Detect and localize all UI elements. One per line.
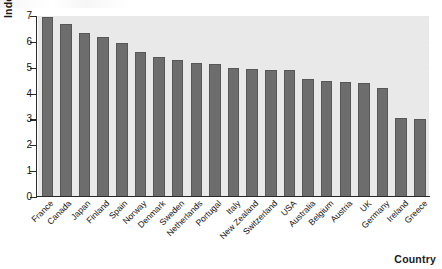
- bar: [228, 68, 240, 197]
- bar-slot: [131, 16, 150, 197]
- scan-artifact: [0, 0, 130, 8]
- bar-slot: [355, 16, 374, 197]
- bar: [284, 70, 296, 197]
- bar: [265, 70, 277, 197]
- y-axis-tick-label: 0: [20, 192, 32, 202]
- bar-slot: [392, 16, 411, 197]
- y-axis-tick-label: 3: [20, 114, 32, 124]
- bar-slot: [75, 16, 94, 197]
- bar-slot: [336, 16, 355, 197]
- x-axis-tick-labels: FranceCanadaJapanFinlandSpainNorwayDenma…: [37, 199, 430, 257]
- bar: [246, 69, 258, 197]
- x-axis-line: [36, 196, 430, 197]
- bar-slot: [57, 16, 76, 197]
- y-axis-title: Index: [2, 0, 16, 18]
- bar-slot: [280, 16, 299, 197]
- bar: [302, 79, 314, 197]
- y-axis-tick-label: 4: [20, 89, 32, 99]
- bar-slot: [411, 16, 430, 197]
- bar: [377, 88, 389, 197]
- y-axis-tick-label: 1: [20, 166, 32, 176]
- bar-slot: [224, 16, 243, 197]
- bar-slot: [262, 16, 281, 197]
- x-axis-title: Country: [394, 253, 436, 265]
- bar-slot: [206, 16, 225, 197]
- bar: [340, 82, 352, 197]
- bar-chart-figure: Index 01234567 FranceCanadaJapanFinlandS…: [0, 0, 442, 269]
- bar: [358, 83, 370, 197]
- bar: [97, 37, 109, 197]
- bar: [172, 60, 184, 197]
- bar-slot: [243, 16, 262, 197]
- y-axis-tick-label: 5: [20, 63, 32, 73]
- bar-slot: [94, 16, 113, 197]
- bar-slot: [187, 16, 206, 197]
- bar-slot: [168, 16, 187, 197]
- bar-slot: [373, 16, 392, 197]
- bar: [321, 81, 333, 197]
- bar-slot: [113, 16, 132, 197]
- bar: [414, 119, 426, 197]
- bar: [135, 52, 147, 197]
- bar: [79, 33, 91, 197]
- bar: [42, 17, 54, 197]
- bar: [60, 24, 72, 197]
- y-axis-tick-label: 7: [20, 11, 32, 21]
- bar: [191, 63, 203, 197]
- bar-slot: [299, 16, 318, 197]
- bar: [116, 43, 128, 197]
- bar: [395, 118, 407, 197]
- bar-slot: [317, 16, 336, 197]
- plot-area: [37, 16, 430, 197]
- bar: [153, 57, 165, 197]
- bar: [209, 64, 221, 197]
- bar-series: [37, 16, 430, 197]
- bar-slot: [38, 16, 57, 197]
- y-axis-tick-label: 2: [20, 140, 32, 150]
- y-axis-tick-label: 6: [20, 37, 32, 47]
- bar-slot: [150, 16, 169, 197]
